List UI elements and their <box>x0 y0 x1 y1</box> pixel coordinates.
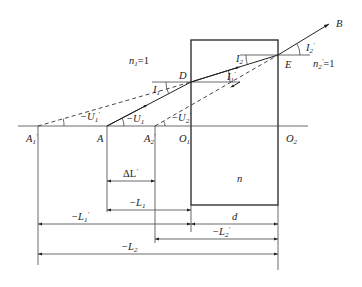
label-n2p: n2′=1 <box>313 57 334 71</box>
arc-U1p <box>63 119 64 126</box>
label-L2: −L2 <box>121 241 138 254</box>
label-delta-L: ΔL′ <box>123 167 138 179</box>
label-O2: O2 <box>286 133 298 146</box>
label-B: B <box>336 18 343 29</box>
optics-diagram: n1=1 n n2′=1 A1′ A A2′ O1 O2 D E B −U1′ … <box>0 0 362 287</box>
label-L2p: −L2′ <box>212 225 230 239</box>
label-I2p: I2′ <box>305 41 315 55</box>
label-U2p: −U2′ <box>171 111 191 125</box>
label-E: E <box>284 59 292 70</box>
label-U1: −U1 <box>126 113 144 126</box>
arc-I2p <box>297 44 300 55</box>
label-U1p: −U1′ <box>80 110 100 124</box>
label-A1p: A1′ <box>25 132 38 146</box>
arc-I1 <box>166 82 169 94</box>
arc-I2 <box>246 55 247 65</box>
arc-U2p <box>164 121 165 126</box>
label-L1p: −L1′ <box>71 210 89 224</box>
label-L1: −L1 <box>129 197 145 210</box>
glass-plate <box>191 40 278 205</box>
label-D: D <box>178 70 187 81</box>
label-A: A <box>96 133 104 144</box>
label-A2p: A2′ <box>143 132 156 146</box>
label-O1: O1 <box>179 133 190 146</box>
label-n: n <box>237 173 242 184</box>
label-d: d <box>232 211 238 222</box>
label-n1: n1=1 <box>129 55 149 68</box>
virtual-ray-A1p <box>38 82 191 126</box>
label-I1: I1 <box>152 84 160 97</box>
arc-U1 <box>122 118 124 126</box>
emergent-ray <box>278 24 329 55</box>
